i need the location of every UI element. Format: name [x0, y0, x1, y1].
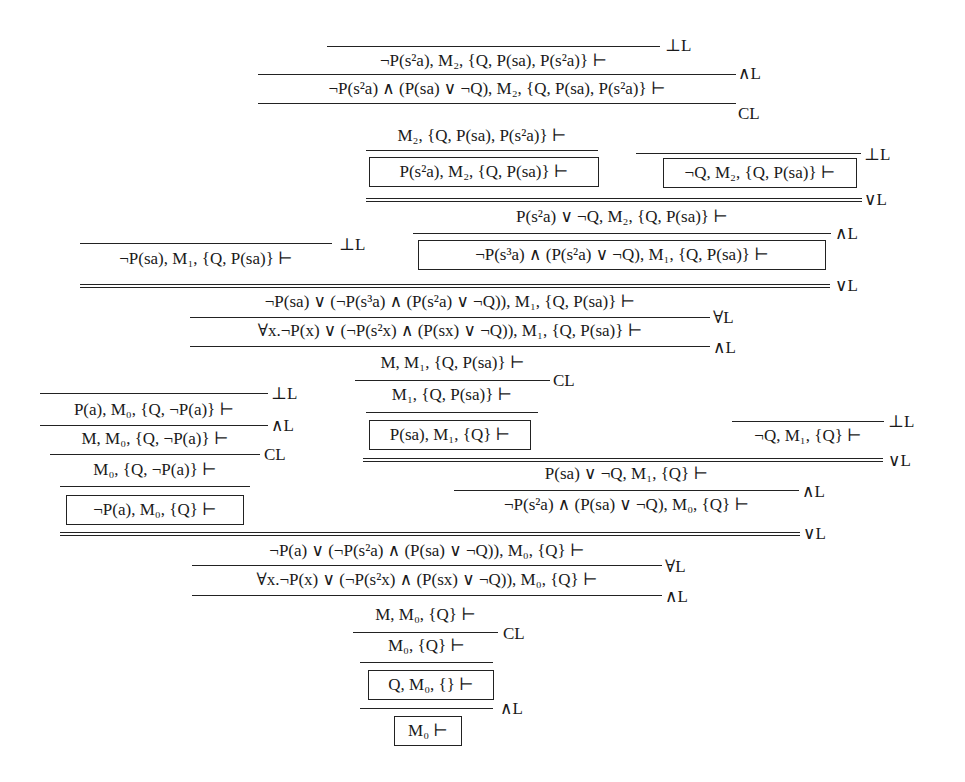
rule-label-bottom-left: ⊥L	[665, 36, 691, 56]
boxed-sequent: ¬P(s³a) ∧ (P(s²a) ∨ ¬Q), M₁, {Q, P(sa)} …	[418, 240, 826, 270]
sequent: ¬P(sa) ∨ (¬P(s³a) ∧ (P(s²a) ∨ ¬Q)), M₁, …	[190, 291, 710, 313]
rule-line	[40, 425, 268, 426]
rule-line	[60, 486, 250, 487]
sequent: M₂, {Q, P(sa), P(s²a)} ⊢	[366, 125, 598, 147]
rule-line	[80, 284, 830, 285]
sequent: M, M₀, {Q, ¬P(a)} ⊢	[50, 428, 260, 450]
sequent: ¬P(a) ∨ (¬P(s²a) ∧ (P(sa) ∨ ¬Q)), M₀, {Q…	[192, 540, 662, 562]
rule-label-bottom-left: ⊥L	[888, 412, 914, 432]
rule-line	[636, 153, 861, 154]
rule-label-or-left: ∨L	[835, 276, 858, 296]
rule-line	[80, 243, 332, 244]
sequent: ¬P(sa), M₁, {Q, P(sa)} ⊢	[80, 248, 332, 270]
boxed-sequent: ¬Q, M₂, {Q, P(sa)} ⊢	[663, 158, 857, 188]
sequent: M, M₀, {Q} ⊢	[353, 604, 498, 626]
rule-line	[366, 150, 598, 151]
rule-line	[413, 233, 831, 234]
rule-label-and-left: ∧L	[835, 224, 858, 244]
sequent: ¬P(s²a) ∧ (P(sa) ∨ ¬Q), M₀, {Q} ⊢	[454, 494, 799, 516]
rule-line	[353, 632, 498, 633]
rule-label-and-left: ∧L	[500, 699, 523, 719]
rule-label-and-left: ∧L	[271, 416, 294, 436]
rule-line	[366, 198, 862, 199]
rule-line	[40, 393, 268, 394]
sequent: M₁, {Q, P(sa)} ⊢	[366, 384, 538, 406]
boxed-sequent: ¬P(a), M₀, {Q} ⊢	[66, 495, 244, 525]
rule-line	[327, 46, 660, 47]
rule-line	[258, 103, 736, 104]
rule-label-and-left: ∧L	[713, 338, 736, 358]
rule-label-forall-left: ∀L	[713, 308, 734, 328]
rule-label-contraction-left: CL	[738, 104, 760, 124]
rule-label-forall-left: ∀L	[665, 557, 686, 577]
rule-line	[60, 532, 800, 533]
rule-line	[360, 662, 493, 663]
rule-line	[50, 454, 260, 455]
rule-label-or-left: ∨L	[803, 524, 826, 544]
sequent: P(s²a) ∨ ¬Q, M₂, {Q, P(sa)} ⊢	[413, 206, 831, 228]
rule-line	[363, 458, 883, 459]
rule-line	[732, 421, 884, 422]
boxed-sequent: P(sa), M₁, {Q} ⊢	[369, 420, 531, 450]
rule-label-bottom-left: ⊥L	[864, 145, 890, 165]
rule-label-or-left: ∨L	[864, 190, 887, 210]
sequent: M₀, {Q, ¬P(a)} ⊢	[60, 459, 250, 481]
sequent: P(sa) ∨ ¬Q, M₁, {Q} ⊢	[454, 463, 799, 485]
sequent: ∀x.¬P(x) ∨ (¬P(s²x) ∧ (P(sx) ∨ ¬Q)), M₁,…	[190, 320, 710, 342]
sequent: P(a), M₀, {Q, ¬P(a)} ⊢	[40, 399, 268, 421]
rule-label-and-left: ∧L	[665, 587, 688, 607]
sequent: ¬P(s²a) ∧ (P(sa) ∨ ¬Q), M₂, {Q, P(sa), P…	[258, 78, 736, 100]
rule-label-bottom-left: ⊥L	[339, 235, 365, 255]
rule-line	[454, 490, 799, 491]
sequent: ¬P(s²a), M₂, {Q, P(sa), P(s²a)} ⊢	[327, 50, 660, 72]
rule-label-and-left: ∧L	[802, 482, 825, 502]
rule-line	[366, 412, 538, 413]
sequent: M, M₁, {Q, P(sa)} ⊢	[355, 352, 550, 374]
rule-label-contraction-left: CL	[553, 371, 575, 391]
rule-label-bottom-left: ⊥L	[271, 384, 297, 404]
sequent: ∀x.¬P(x) ∨ (¬P(s²x) ∧ (P(sx) ∨ ¬Q)), M₀,…	[192, 569, 662, 591]
rule-line	[360, 708, 493, 709]
rule-label-contraction-left: CL	[264, 445, 286, 465]
rule-line	[355, 380, 550, 381]
rule-label-or-left: ∨L	[888, 451, 911, 471]
rule-line	[190, 346, 710, 347]
boxed-sequent: Q, M₀, {} ⊢	[368, 670, 494, 700]
sequent: ¬Q, M₁, {Q} ⊢	[732, 425, 884, 447]
sequent: M₀, {Q} ⊢	[360, 635, 493, 657]
rule-label-contraction-left: CL	[503, 624, 525, 644]
boxed-sequent: M₀ ⊢	[394, 716, 462, 746]
rule-label-and-left: ∧L	[738, 64, 761, 84]
rule-line	[190, 317, 710, 318]
rule-line	[192, 565, 662, 566]
rule-line	[192, 595, 662, 596]
rule-line	[258, 74, 736, 75]
boxed-sequent: P(s²a), M₂, {Q, P(sa)} ⊢	[369, 157, 599, 187]
